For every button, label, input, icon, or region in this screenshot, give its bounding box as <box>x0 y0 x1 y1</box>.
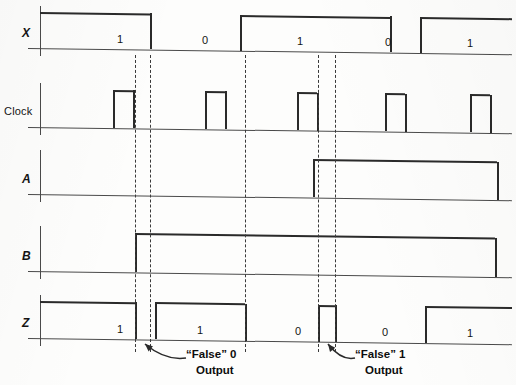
annotation-false-one-arrow-icon <box>0 0 516 385</box>
timing-diagram-figure: X10101ClockABZ11001 “False” 0Output“Fals… <box>0 0 516 385</box>
